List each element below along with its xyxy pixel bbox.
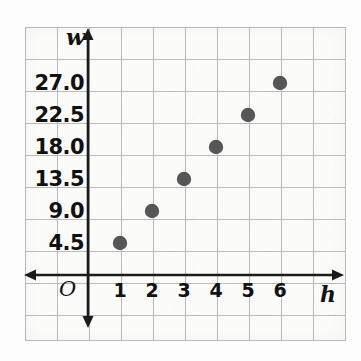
x-axis-label: h [320, 281, 336, 307]
scatter-plot-figure: w h O 27.0 22.5 18.0 13.5 9.0 4.5 1 2 3 … [0, 0, 361, 361]
data-point[interactable] [113, 236, 127, 250]
y-tick-label: 13.5 [22, 167, 84, 191]
y-tick-label: 27.0 [22, 71, 84, 95]
data-point[interactable] [241, 108, 255, 122]
y-axis [83, 28, 94, 328]
data-point[interactable] [145, 204, 159, 218]
x-tick-label: 5 [235, 279, 261, 301]
x-tick-label: 3 [171, 279, 197, 301]
y-axis-label: w [66, 24, 85, 50]
y-tick-label: 22.5 [22, 103, 84, 127]
x-tick-label: 1 [107, 279, 133, 301]
x-tick-label: 6 [267, 279, 293, 301]
y-tick-label: 18.0 [22, 135, 84, 159]
origin-label: O [59, 277, 76, 301]
data-point[interactable] [209, 140, 223, 154]
data-points-group [113, 76, 287, 250]
data-point[interactable] [177, 172, 191, 186]
x-tick-label: 2 [139, 279, 165, 301]
y-tick-label: 9.0 [22, 199, 84, 223]
x-tick-label: 4 [203, 279, 229, 301]
y-tick-label: 4.5 [22, 231, 84, 255]
data-point[interactable] [273, 76, 287, 90]
